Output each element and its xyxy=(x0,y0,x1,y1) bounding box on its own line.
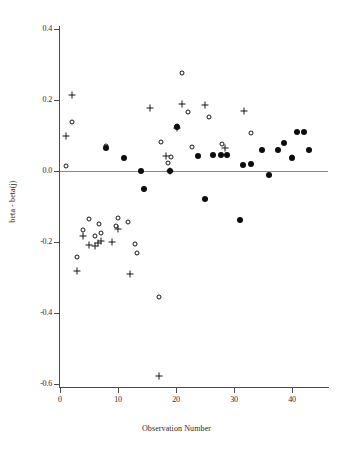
data-point-plus xyxy=(91,242,98,249)
data-point-filled-circle xyxy=(266,172,272,178)
data-point-filled-circle xyxy=(218,152,224,158)
y-tick-label: 0.4 xyxy=(43,25,52,33)
data-point-plus xyxy=(62,132,69,139)
data-point-open-circle xyxy=(97,222,102,227)
data-point-filled-circle xyxy=(141,186,147,192)
data-point-open-circle xyxy=(190,144,195,149)
data-point-open-circle xyxy=(179,70,184,75)
y-tick-mark xyxy=(54,384,60,385)
data-point-plus xyxy=(115,225,122,232)
data-point-open-circle xyxy=(206,115,211,120)
data-point-open-circle xyxy=(165,161,170,166)
data-point-plus xyxy=(167,168,174,175)
data-point-plus xyxy=(174,124,181,131)
data-point-filled-circle xyxy=(306,147,312,153)
data-point-filled-circle xyxy=(301,129,307,135)
data-point-open-circle xyxy=(158,139,163,144)
data-point-filled-circle xyxy=(103,145,109,151)
data-point-plus xyxy=(95,239,102,246)
data-point-open-circle xyxy=(92,233,97,238)
data-point-open-circle xyxy=(185,109,190,114)
data-point-filled-circle xyxy=(259,147,265,153)
data-point-plus xyxy=(80,232,87,239)
x-tick-label: 10 xyxy=(108,396,128,404)
data-point-filled-circle xyxy=(121,155,127,161)
x-tick-mark xyxy=(60,388,61,393)
data-point-plus xyxy=(178,100,185,107)
data-point-open-circle xyxy=(156,295,161,300)
x-tick-mark xyxy=(292,388,293,393)
x-axis-line xyxy=(59,387,329,388)
y-axis-title: beta - beta(j) xyxy=(8,157,17,247)
data-point-plus xyxy=(202,102,209,109)
data-point-open-circle xyxy=(87,216,92,221)
data-point-plus xyxy=(74,268,81,275)
data-point-open-circle xyxy=(133,241,138,246)
data-point-open-circle xyxy=(175,123,180,128)
data-point-open-circle xyxy=(169,154,174,159)
data-point-filled-circle xyxy=(275,147,281,153)
data-point-open-circle xyxy=(249,131,254,136)
y-tick-label: -0.6 xyxy=(40,380,52,388)
data-point-open-circle xyxy=(104,144,109,149)
data-point-plus xyxy=(126,270,133,277)
data-point-filled-circle xyxy=(237,217,243,223)
data-point-open-circle xyxy=(237,217,242,222)
plot-area xyxy=(60,29,328,384)
data-point-plus xyxy=(221,144,228,151)
data-point-plus xyxy=(68,91,75,98)
y-tick-label: 0.0 xyxy=(43,167,52,175)
data-point-filled-circle xyxy=(281,140,287,146)
data-point-filled-circle xyxy=(289,155,295,161)
data-point-plus xyxy=(109,239,116,246)
data-point-plus xyxy=(86,241,93,248)
data-point-filled-circle xyxy=(240,162,246,168)
data-point-filled-circle xyxy=(138,168,144,174)
data-point-filled-circle xyxy=(195,153,201,159)
data-point-plus xyxy=(162,153,169,160)
data-point-plus xyxy=(155,373,162,380)
data-point-filled-circle xyxy=(210,152,216,158)
y-tick-label: -0.4 xyxy=(40,309,52,317)
data-point-open-circle xyxy=(81,227,86,232)
y-tick-label: 0.2 xyxy=(43,96,52,104)
x-axis-title: Observation Number xyxy=(0,424,353,433)
data-point-open-circle xyxy=(63,164,68,169)
x-tick-label: 0 xyxy=(50,396,70,404)
data-point-open-circle xyxy=(75,255,80,260)
x-tick-mark xyxy=(118,388,119,393)
data-point-open-circle xyxy=(116,216,121,221)
data-point-open-circle xyxy=(134,251,139,256)
x-tick-mark xyxy=(176,388,177,393)
y-tick-label: -0.2 xyxy=(40,238,52,246)
data-point-filled-circle xyxy=(167,168,173,174)
scatter-plot-figure: 0.40.20.0-0.2-0.4-0.6 010203040 beta - b… xyxy=(0,0,353,452)
x-tick-label: 30 xyxy=(224,396,244,404)
data-point-open-circle xyxy=(113,224,118,229)
data-point-filled-circle xyxy=(294,129,300,135)
data-point-plus xyxy=(147,105,154,112)
data-point-filled-circle xyxy=(248,161,254,167)
data-point-filled-circle xyxy=(224,152,230,158)
data-point-plus xyxy=(97,237,104,244)
data-point-filled-circle xyxy=(202,196,208,202)
data-point-open-circle xyxy=(126,220,131,225)
data-point-open-circle xyxy=(98,231,103,236)
x-tick-label: 40 xyxy=(282,396,302,404)
data-point-plus xyxy=(241,108,248,115)
data-point-open-circle xyxy=(69,120,74,125)
data-point-filled-circle xyxy=(174,124,180,130)
data-point-open-circle xyxy=(220,142,225,147)
x-tick-mark xyxy=(234,388,235,393)
data-point-open-circle xyxy=(290,154,295,159)
x-tick-label: 20 xyxy=(166,396,186,404)
